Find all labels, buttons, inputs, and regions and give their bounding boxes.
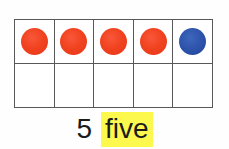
- ten-frame-cell-4[interactable]: [134, 20, 174, 64]
- counter-blue-1: [179, 28, 206, 55]
- ten-frame-cell-2[interactable]: [55, 20, 95, 64]
- ten-frame-grid: [14, 19, 213, 108]
- counter-red-2: [60, 28, 87, 55]
- caption-row: 5 five: [0, 112, 229, 146]
- numeral-label: 5: [76, 114, 101, 144]
- ten-frame-cell-5[interactable]: [173, 20, 213, 64]
- ten-frame-cell-7[interactable]: [55, 64, 95, 108]
- ten-frame-cell-3[interactable]: [94, 20, 134, 64]
- ten-frame-cell-8[interactable]: [94, 64, 134, 108]
- ten-frame-cell-9[interactable]: [134, 64, 174, 108]
- ten-frame-cell-10[interactable]: [173, 64, 213, 108]
- number-word-label: five: [101, 112, 153, 147]
- ten-frame-cell-6[interactable]: [15, 64, 55, 108]
- ten-frame-cell-1[interactable]: [15, 20, 55, 64]
- counter-red-3: [100, 28, 127, 55]
- counting-worksheet: 5 five: [0, 0, 229, 149]
- counter-red-4: [140, 28, 167, 55]
- counter-red-1: [21, 28, 48, 55]
